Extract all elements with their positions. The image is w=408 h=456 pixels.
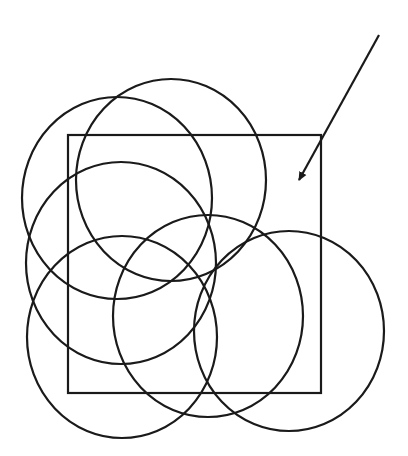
diagram-canvas: [0, 0, 408, 456]
circle-bottom-right: [194, 231, 384, 431]
circle-upper-left: [22, 97, 212, 299]
overlapping-circles-diagram: [0, 0, 408, 456]
circle-bottom-center: [113, 215, 303, 417]
circles-group: [22, 79, 384, 438]
pointer-arrow: [299, 35, 379, 180]
bounding-square: [68, 135, 321, 393]
